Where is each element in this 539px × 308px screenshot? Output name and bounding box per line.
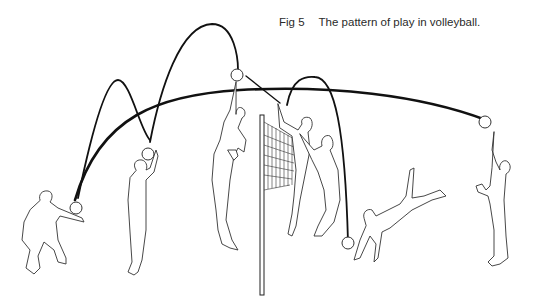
ball-rebound bbox=[342, 237, 354, 249]
net bbox=[260, 115, 296, 295]
player-spiker bbox=[212, 82, 246, 250]
player-setter bbox=[128, 150, 158, 275]
player-blocker-1 bbox=[278, 104, 312, 236]
player-server bbox=[476, 132, 510, 266]
ball-receiver bbox=[70, 202, 82, 214]
net-post bbox=[260, 115, 264, 295]
ball-spiker bbox=[231, 69, 243, 81]
ball-server bbox=[479, 116, 491, 128]
ball-setter bbox=[142, 148, 154, 160]
player-diver bbox=[354, 168, 446, 262]
volleyball-illustration bbox=[0, 0, 539, 308]
